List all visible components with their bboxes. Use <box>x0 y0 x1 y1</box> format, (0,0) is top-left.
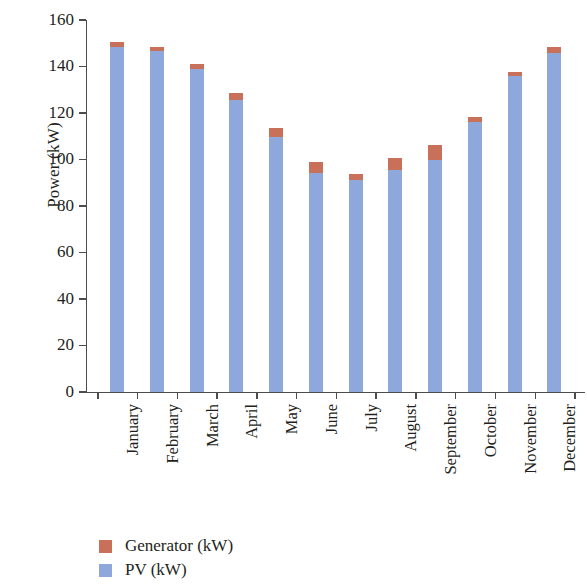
bar-stack <box>269 20 283 392</box>
legend-item: PV (kW) <box>99 558 399 582</box>
bar-segment-pv <box>309 173 323 392</box>
x-axis-category-label: June <box>322 404 342 434</box>
bar-segment-generator <box>229 93 243 100</box>
bar-stack <box>110 20 124 392</box>
y-axis-tick: 100 <box>79 159 86 160</box>
y-axis-tick-label: 120 <box>49 103 75 123</box>
bar-segment-pv <box>428 160 442 392</box>
bar-stack <box>190 20 204 392</box>
bar-segment-pv <box>388 170 402 392</box>
y-axis-tick-label: 80 <box>57 196 74 216</box>
chart-figure: Power (kW) 020406080100120140160 January… <box>0 0 587 584</box>
x-axis-category-label: April <box>242 404 262 439</box>
x-axis-tick <box>375 392 376 399</box>
legend-swatch <box>99 564 112 577</box>
bar-stack <box>349 20 363 392</box>
x-axis-category-label: November <box>521 404 541 474</box>
x-axis-tick <box>216 392 217 399</box>
bar-stack <box>468 20 482 392</box>
x-axis-category-label: October <box>481 404 501 457</box>
bar-segment-pv <box>229 100 243 392</box>
x-axis-tick <box>256 392 257 399</box>
bar-segment-generator <box>428 145 442 160</box>
y-axis-tick-label: 20 <box>57 335 74 355</box>
bar-segment-pv <box>468 122 482 392</box>
bar-stack <box>508 20 522 392</box>
legend-label: Generator (kW) <box>125 536 233 556</box>
y-axis-tick: 20 <box>79 345 86 346</box>
bar-stack <box>309 20 323 392</box>
y-axis-tick: 140 <box>79 66 86 67</box>
x-axis-category-label: May <box>282 404 302 434</box>
plot-area: 020406080100120140160 <box>86 20 585 392</box>
bar-segment-generator <box>190 64 204 69</box>
x-axis-tick <box>574 392 575 399</box>
bar-stack <box>547 20 561 392</box>
bar-segment-generator <box>547 47 561 53</box>
bar-segment-generator <box>468 117 482 122</box>
y-axis-tick: 60 <box>79 252 86 253</box>
y-axis-tick-label: 40 <box>57 289 74 309</box>
x-axis-category-label: July <box>362 404 382 432</box>
bar-segment-pv <box>150 51 164 392</box>
legend-label: PV (kW) <box>125 560 187 580</box>
x-axis-tick <box>137 392 138 399</box>
y-axis-tick: 120 <box>79 112 86 113</box>
x-axis-category-label: March <box>203 404 223 447</box>
bar-segment-generator <box>388 158 402 170</box>
x-axis-category-label: January <box>123 404 143 455</box>
x-axis-tick <box>296 392 297 399</box>
x-axis-category-labels: JanuaryFebruaryMarchAprilMayJuneJulyAugu… <box>86 404 585 514</box>
x-axis-category-label: August <box>401 404 421 452</box>
bar-segment-generator <box>309 162 323 173</box>
y-axis-tick-label: 140 <box>49 56 75 76</box>
x-axis-category-label: September <box>441 404 461 475</box>
y-axis-line <box>86 20 87 392</box>
bar-segment-pv <box>547 53 561 392</box>
x-axis-tick <box>455 392 456 399</box>
bar-stack <box>150 20 164 392</box>
x-axis-tick <box>535 392 536 399</box>
legend-swatch <box>99 540 112 553</box>
bar-segment-generator <box>508 72 522 76</box>
bar-segment-generator <box>269 128 283 137</box>
x-axis-tick <box>495 392 496 399</box>
bar-segment-pv <box>190 69 204 392</box>
y-axis-tick: 40 <box>79 298 86 299</box>
bar-segment-pv <box>349 180 363 392</box>
x-axis-category-label: February <box>163 404 183 464</box>
x-axis-tick <box>336 392 337 399</box>
y-axis-tick-label: 60 <box>57 242 74 262</box>
bar-segment-pv <box>508 76 522 392</box>
y-axis-tick-label: 160 <box>49 10 75 30</box>
y-axis-tick: 0 <box>79 391 86 392</box>
bar-stack <box>229 20 243 392</box>
chart-legend: Generator (kW)PV (kW) <box>99 534 399 582</box>
x-axis-tick <box>415 392 416 399</box>
y-axis-tick: 160 <box>79 19 86 20</box>
x-axis-category-label: December <box>560 404 580 472</box>
y-axis-tick-label: 100 <box>49 149 75 169</box>
bar-segment-pv <box>269 137 283 392</box>
y-axis-tick-label: 0 <box>66 382 75 402</box>
x-axis-tick <box>177 392 178 399</box>
bar-segment-generator <box>150 47 164 51</box>
bar-stack <box>388 20 402 392</box>
legend-item: Generator (kW) <box>99 534 399 558</box>
x-axis-tick <box>97 392 98 399</box>
bar-segment-generator <box>349 174 363 180</box>
bar-stack <box>428 20 442 392</box>
bar-segment-pv <box>110 47 124 392</box>
y-axis-tick: 80 <box>79 205 86 206</box>
bar-segment-generator <box>110 42 124 47</box>
